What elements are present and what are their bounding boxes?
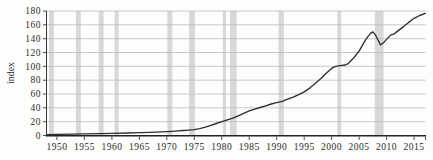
recession-band (76, 11, 81, 136)
y-tick-label: 120 (25, 48, 41, 58)
y-tick-label: 20 (31, 117, 42, 127)
x-tick-label: 2015 (404, 142, 425, 152)
x-tick-label: 2000 (321, 142, 342, 152)
x-tick-label: 1985 (239, 142, 260, 152)
recession-band (49, 11, 54, 136)
recession-band (279, 11, 284, 136)
x-tick-label: 1965 (129, 142, 150, 152)
line-chart-figure: index 1950195519601965197019751980198519… (0, 0, 433, 160)
y-tick-label: 160 (25, 20, 41, 30)
x-tick-label: 1975 (184, 142, 205, 152)
recession-band (189, 11, 195, 136)
y-tick-label: 40 (31, 103, 42, 113)
y-tick-label: 0 (36, 131, 41, 141)
y-tick-label: 80 (31, 75, 42, 85)
recession-band (223, 11, 226, 136)
y-tick-label: 60 (31, 89, 42, 99)
x-tick-label: 1960 (101, 142, 122, 152)
y-tick-label: 180 (25, 6, 41, 16)
recession-band (337, 11, 341, 136)
chart-canvas: 1950195519601965197019751980198519901995… (0, 0, 433, 160)
x-tick-label: 1980 (211, 142, 232, 152)
x-tick-label: 2010 (376, 142, 397, 152)
y-tick-labels: 020406080100120140160180 (25, 6, 41, 141)
recession-band (115, 11, 119, 136)
recession-band (375, 11, 384, 136)
x-tick-label: 1950 (46, 142, 67, 152)
recession-band (167, 11, 172, 136)
x-tick-label: 1955 (74, 142, 95, 152)
y-tick-label: 140 (25, 34, 41, 44)
x-tick-labels: 1950195519601965197019751980198519901995… (46, 142, 424, 152)
recession-bands (49, 11, 384, 136)
recession-band (99, 11, 104, 136)
x-tick-label: 2005 (349, 142, 370, 152)
x-tick-label: 1990 (266, 142, 287, 152)
x-tick-label: 1970 (156, 142, 177, 152)
y-tick-label: 100 (25, 62, 41, 72)
x-tick-label: 1995 (294, 142, 315, 152)
